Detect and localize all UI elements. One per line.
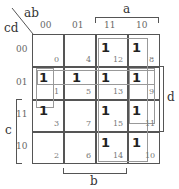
- cell-index: 3: [54, 119, 59, 128]
- cell-value: 1: [132, 70, 141, 85]
- cell-value: 1: [101, 135, 110, 150]
- cell-index: 1: [54, 87, 59, 96]
- col-header-00: 00: [40, 20, 51, 30]
- cell-index: 11: [145, 119, 155, 128]
- row-header-00: 00: [16, 44, 27, 54]
- cell-index: 6: [86, 151, 91, 160]
- col-variable-label: ab: [24, 6, 39, 20]
- bracket-d: [158, 66, 164, 132]
- cell-index: 7: [86, 119, 91, 128]
- cell-index: 10: [145, 151, 155, 160]
- cell-index: 13: [113, 87, 123, 96]
- cell-value: 1: [101, 103, 110, 118]
- cell-index: 2: [54, 151, 59, 160]
- cell-index: 15: [113, 119, 123, 128]
- cell-index: 12: [113, 55, 123, 64]
- row-header-01: 01: [16, 77, 27, 87]
- cell-value: 1: [101, 70, 110, 85]
- bracket-label-d: d: [167, 90, 175, 104]
- cell-index: 9: [149, 87, 154, 96]
- bracket-label-a: a: [123, 2, 130, 16]
- bracket-c: [16, 99, 22, 164]
- cell-index: 5: [86, 87, 91, 96]
- cell-value: 1: [72, 70, 81, 85]
- bracket-label-b: b: [90, 174, 98, 188]
- cell-value: 1: [132, 135, 141, 150]
- bracket-label-c: c: [5, 123, 12, 137]
- cell-value: 1: [132, 40, 141, 55]
- cell-index: 14: [113, 151, 123, 160]
- cell-value: 1: [39, 103, 48, 118]
- row-variable-label: cd: [4, 21, 18, 35]
- col-header-01: 01: [72, 20, 83, 30]
- bracket-a: [95, 17, 159, 23]
- cell-index: 0: [54, 55, 59, 64]
- cell-value: 1: [101, 40, 110, 55]
- cell-value: 1: [132, 103, 141, 118]
- cell-index: 4: [86, 55, 91, 64]
- cell-value: 1: [39, 70, 48, 85]
- cell-index: 8: [149, 55, 154, 64]
